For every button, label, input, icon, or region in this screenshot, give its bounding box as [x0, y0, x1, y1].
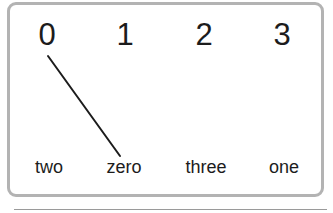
connection-lines: [0, 0, 333, 213]
connection-line-0-zero: [48, 56, 120, 156]
divider-line: [14, 209, 327, 210]
